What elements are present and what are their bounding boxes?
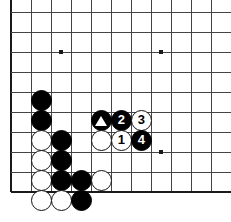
move-number-label: 2 xyxy=(118,113,125,126)
white-stone-move-1[interactable]: 1 xyxy=(111,130,132,151)
black-stone-move-4[interactable]: 4 xyxy=(131,130,152,151)
white-stone-a[interactable] xyxy=(31,130,52,151)
black-stone-f[interactable] xyxy=(71,170,92,191)
black-stone-c[interactable] xyxy=(51,130,72,151)
star-point xyxy=(59,50,63,54)
white-stone-move-3[interactable]: 3 xyxy=(131,110,152,131)
triangle-marker-icon xyxy=(95,116,107,126)
white-stone-e[interactable] xyxy=(31,190,52,211)
star-point xyxy=(159,150,163,154)
white-stone-h[interactable] xyxy=(91,130,112,151)
black-stone-triangle[interactable] xyxy=(91,110,112,131)
white-stone-b[interactable] xyxy=(31,150,52,171)
white-stone-c[interactable] xyxy=(31,170,52,191)
go-board-diagram: 2314 xyxy=(0,0,231,222)
black-stone-b[interactable] xyxy=(31,110,52,131)
black-stone-a[interactable] xyxy=(31,90,52,111)
black-stone-g[interactable] xyxy=(71,190,92,211)
move-number-label: 3 xyxy=(138,113,145,126)
move-number-label: 4 xyxy=(138,133,145,146)
black-stone-e[interactable] xyxy=(51,170,72,191)
star-point xyxy=(159,50,163,54)
move-number-label: 1 xyxy=(118,133,125,146)
white-stone-f[interactable] xyxy=(51,190,72,211)
black-stone-move-2[interactable]: 2 xyxy=(111,110,132,131)
black-stone-d[interactable] xyxy=(51,150,72,171)
white-stone-d[interactable] xyxy=(91,170,112,191)
